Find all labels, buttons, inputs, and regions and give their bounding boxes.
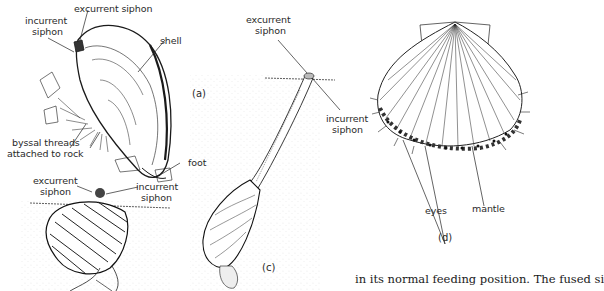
label-cockle-incurrent-line1: incurrent [136,181,178,192]
label-byssal-threads-line1: byssal threads [12,137,80,148]
siphon-clam-drawing [190,73,335,291]
scallop-drawing [370,22,530,154]
label-mussel-excurrent-siphon: excurrent siphon [74,3,152,14]
label-cockle-incurrent-line2: siphon [141,192,172,203]
label-clam-excurrent-line2: siphon [255,25,286,36]
label-mussel-incurrent-line2: siphon [32,26,63,37]
panel-tag-a: (a) [192,88,206,99]
label-scallop-eyes: eyes [425,205,447,216]
body-text-fragment: in its normal feeding position. The fuse… [355,272,604,286]
label-clam-incurrent-line2: siphon [332,124,363,135]
label-clam-excurrent-line1: excurrent [246,14,291,25]
label-clam-incurrent-line1: incurrent [326,113,368,124]
panel-tag-d: (d) [438,232,452,243]
label-scallop-mantle: mantle [472,203,505,214]
label-byssal-threads-line2: attached to rock [7,148,83,159]
panel-tag-c: (c) [262,262,275,273]
label-mussel-shell: shell [160,35,182,46]
label-mussel-incurrent-line1: incurrent [25,15,67,26]
label-mussel-foot: foot [188,157,206,168]
label-cockle-excurrent-line2: siphon [40,186,71,197]
cockle-drawing [20,188,170,291]
label-cockle-excurrent-line1: excurrent [33,175,78,186]
